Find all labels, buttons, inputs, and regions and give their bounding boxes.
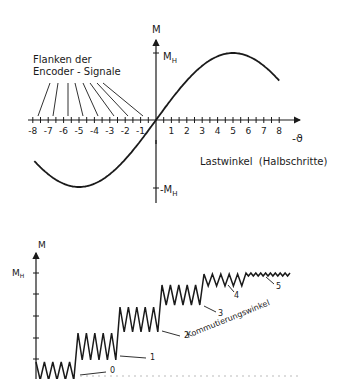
x-tick-label: 7	[261, 126, 267, 136]
step-label: 0	[110, 366, 115, 375]
x-tick-label: -3	[105, 126, 114, 136]
top-x-tick-labels: -8-7-6-5-4-3-2-112345678	[28, 126, 282, 136]
bottom-y-axis-label: M	[38, 240, 46, 250]
bottom-diagram: M MH 012345 Kommutierungswinkel	[12, 240, 300, 379]
x-tick-label: -8	[28, 126, 37, 136]
diagram-canvas: M MH -MH -8-7-6-5-4-3-2-112345678 -ϑ Las…	[0, 0, 353, 379]
step-leader	[80, 372, 106, 375]
x-tick-label: -4	[90, 126, 99, 136]
leader-line	[83, 83, 98, 116]
x-tick-label: 5	[230, 126, 236, 136]
x-tick-label: 4	[215, 126, 221, 136]
x-tick-label: -2	[121, 126, 130, 136]
top-x-axis-title: Lastwinkel (Halbschritte)	[200, 156, 327, 167]
annotation-line-2: Encoder - Signale	[33, 66, 121, 77]
top-y-axis-label: M	[152, 24, 161, 35]
x-tick-label: -6	[59, 126, 68, 136]
step-leader	[120, 356, 146, 358]
step-label: 1	[150, 353, 155, 362]
x-tick-label: -5	[75, 126, 84, 136]
x-tick-label: -1	[136, 126, 145, 136]
top-diagram: M MH -MH -8-7-6-5-4-3-2-112345678 -ϑ Las…	[28, 24, 327, 203]
step-leader	[204, 306, 216, 312]
bottom-mh-label: MH	[12, 268, 24, 279]
leader-line	[75, 83, 83, 116]
step-leader	[266, 277, 274, 284]
step-label: 4	[234, 291, 239, 300]
x-tick-label: 6	[246, 126, 252, 136]
x-tick-label: 3	[199, 126, 205, 136]
step-leader	[162, 331, 180, 336]
top-x-axis-symbol: -ϑ	[292, 132, 303, 145]
x-tick-label: 1	[169, 126, 175, 136]
commutation-angle-label: Kommutierungswinkel	[185, 298, 271, 340]
top-mh-label: MH	[163, 51, 177, 65]
leader-line	[38, 83, 50, 116]
annotation-leader-lines	[38, 83, 143, 116]
leader-line	[53, 83, 58, 116]
x-tick-label: 8	[276, 126, 282, 136]
annotation-line-1: Flanken der	[33, 54, 93, 65]
top-neg-mh-label: -MH	[160, 184, 178, 198]
x-tick-label: -7	[44, 126, 53, 136]
x-tick-label: 2	[184, 126, 190, 136]
step-label: 5	[276, 282, 281, 291]
sawtooth-torque-curve	[36, 273, 290, 379]
